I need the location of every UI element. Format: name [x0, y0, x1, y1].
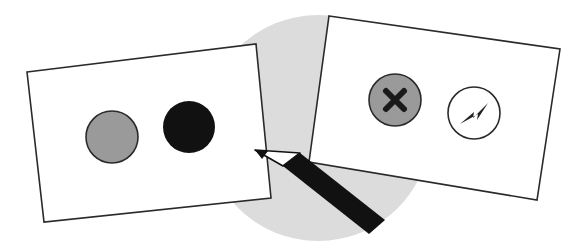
lightning-icon	[448, 87, 500, 139]
left-card	[27, 44, 271, 222]
illustration-canvas	[0, 0, 580, 251]
black-circle	[163, 101, 215, 153]
close-icon	[369, 74, 421, 126]
gray-circle	[86, 111, 138, 163]
